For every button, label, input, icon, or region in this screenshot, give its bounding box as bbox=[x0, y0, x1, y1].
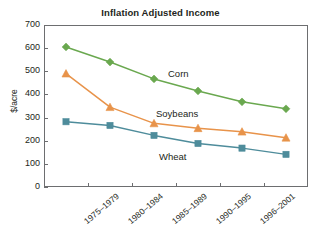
data-point-marker bbox=[283, 151, 289, 157]
data-point-marker bbox=[63, 119, 69, 125]
data-point-marker bbox=[62, 70, 70, 77]
data-point-marker bbox=[151, 132, 157, 138]
y-axis-tick-mark bbox=[44, 187, 48, 188]
data-point-marker bbox=[107, 122, 113, 128]
y-axis-tick-mark bbox=[44, 48, 48, 49]
x-axis-tick-label: 1996–2001 bbox=[258, 191, 297, 226]
x-axis-tick-mark bbox=[132, 183, 133, 187]
y-axis-tick-mark bbox=[44, 118, 48, 119]
data-point-marker bbox=[195, 140, 201, 146]
x-axis-tick-mark bbox=[264, 183, 265, 187]
x-axis-tick-mark bbox=[176, 183, 177, 187]
series-label-wheat: Wheat bbox=[159, 151, 186, 162]
data-point-marker bbox=[238, 98, 246, 106]
data-point-marker bbox=[106, 58, 114, 66]
x-axis-tick-label: 1980–1984 bbox=[126, 191, 165, 226]
series-soybeans bbox=[62, 70, 290, 142]
series-label-corn: Corn bbox=[168, 68, 189, 79]
y-axis-tick-mark bbox=[44, 164, 48, 165]
y-axis-tick-label: 0 bbox=[4, 182, 40, 191]
chart-title: Inflation Adjusted Income bbox=[0, 7, 321, 18]
series-label-soybeans: Soybeans bbox=[156, 108, 198, 119]
data-point-marker bbox=[62, 43, 70, 51]
y-axis-tick-labels: 0100200300400500600700 bbox=[0, 0, 40, 244]
x-axis-tick-label: 1990–1995 bbox=[214, 191, 253, 226]
plot-series-layer bbox=[44, 25, 308, 187]
y-axis-tick-label: 500 bbox=[4, 66, 40, 75]
y-axis-tick-label: 100 bbox=[4, 159, 40, 168]
y-axis-tick-mark bbox=[44, 71, 48, 72]
x-axis-tick-label: 1975–1979 bbox=[82, 191, 121, 226]
y-axis-tick-label: 300 bbox=[4, 113, 40, 122]
y-axis-tick-mark bbox=[44, 94, 48, 95]
data-point-marker bbox=[194, 87, 202, 95]
data-point-marker bbox=[150, 75, 158, 83]
series-line bbox=[66, 122, 286, 155]
series-line bbox=[66, 74, 286, 138]
y-axis-tick-label: 200 bbox=[4, 136, 40, 145]
x-axis-tick-mark bbox=[88, 183, 89, 187]
y-axis-tick-label: 700 bbox=[4, 20, 40, 29]
chart-figure: Inflation Adjusted Income $/acre 0100200… bbox=[0, 0, 321, 244]
y-axis-tick-label: 400 bbox=[4, 89, 40, 98]
y-axis-tick-label: 600 bbox=[4, 43, 40, 52]
data-point-marker bbox=[239, 145, 245, 151]
data-point-marker bbox=[282, 105, 290, 113]
x-axis-tick-mark bbox=[220, 183, 221, 187]
x-axis-tick-label: 1985–1989 bbox=[170, 191, 209, 226]
y-axis-tick-mark bbox=[44, 141, 48, 142]
